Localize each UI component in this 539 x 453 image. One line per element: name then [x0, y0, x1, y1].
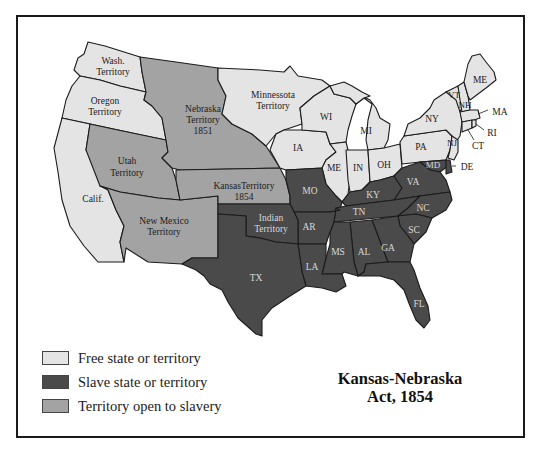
label-me: ME: [473, 75, 487, 85]
leader-ri: [476, 124, 484, 130]
label-il: ME: [327, 163, 341, 173]
region-michigan: [356, 96, 390, 150]
label-ms: MS: [331, 247, 345, 257]
region-delaware: [446, 160, 452, 174]
label-pa: PA: [415, 142, 426, 152]
label-oh: OH: [377, 160, 391, 170]
label-la: LA: [306, 262, 319, 272]
label-ma: MA: [492, 107, 507, 117]
label-md: MD: [426, 160, 441, 170]
label-calif: Calif.: [82, 194, 103, 204]
region-rhode-island: [472, 120, 476, 128]
label-ky: KY: [366, 190, 380, 200]
legend-swatch-open: [42, 399, 69, 413]
label-ri: RI: [487, 128, 497, 138]
label-tn: TN: [353, 207, 366, 217]
legend-item-open: Territory open to slavery: [42, 394, 222, 418]
legend-label-free: Free state or territory: [78, 350, 201, 367]
map-title-line2: Act, 1854: [300, 388, 500, 406]
legend-swatch-free: [42, 351, 69, 365]
legend-item-slave: Slave state or territory: [42, 370, 222, 394]
legend-swatch-slave: [42, 375, 69, 389]
label-va: VA: [407, 177, 420, 187]
label-oregon: OregonTerritory: [88, 96, 122, 117]
leader-ma: [478, 110, 488, 114]
label-in: IN: [353, 163, 363, 173]
map-legend: Free state or territory Slave state or t…: [42, 346, 222, 418]
legend-label-open: Territory open to slavery: [78, 398, 222, 415]
label-ia: IA: [293, 143, 303, 153]
region-connecticut: [462, 120, 472, 132]
label-minnesota: MinnessotaTerritory: [251, 90, 296, 111]
label-mo: MO: [302, 186, 317, 196]
label-ar: AR: [302, 222, 316, 232]
label-indian: IndianTerritory: [254, 213, 288, 234]
label-al: AL: [358, 247, 371, 257]
label-vt: VT: [448, 90, 460, 100]
label-ct: CT: [472, 141, 484, 151]
label-mi: MI: [360, 126, 372, 136]
map-title-line1: Kansas-Nebraska: [300, 370, 500, 388]
label-nh: NH: [459, 100, 472, 110]
label-nc: NC: [416, 203, 429, 213]
map-title: Kansas-Nebraska Act, 1854: [300, 370, 500, 406]
leader-ct: [468, 130, 474, 140]
label-tx: TX: [250, 273, 263, 283]
label-wi: WI: [320, 112, 332, 122]
label-sc: SC: [408, 225, 420, 235]
legend-item-free: Free state or territory: [42, 346, 222, 370]
label-ga: GA: [381, 243, 395, 253]
label-nj: NJ: [447, 138, 457, 148]
region-florida: [358, 262, 430, 328]
label-ny: NY: [425, 114, 439, 124]
legend-label-slave: Slave state or territory: [78, 374, 207, 391]
label-de: DE: [461, 162, 474, 172]
label-fl: FL: [413, 299, 424, 309]
